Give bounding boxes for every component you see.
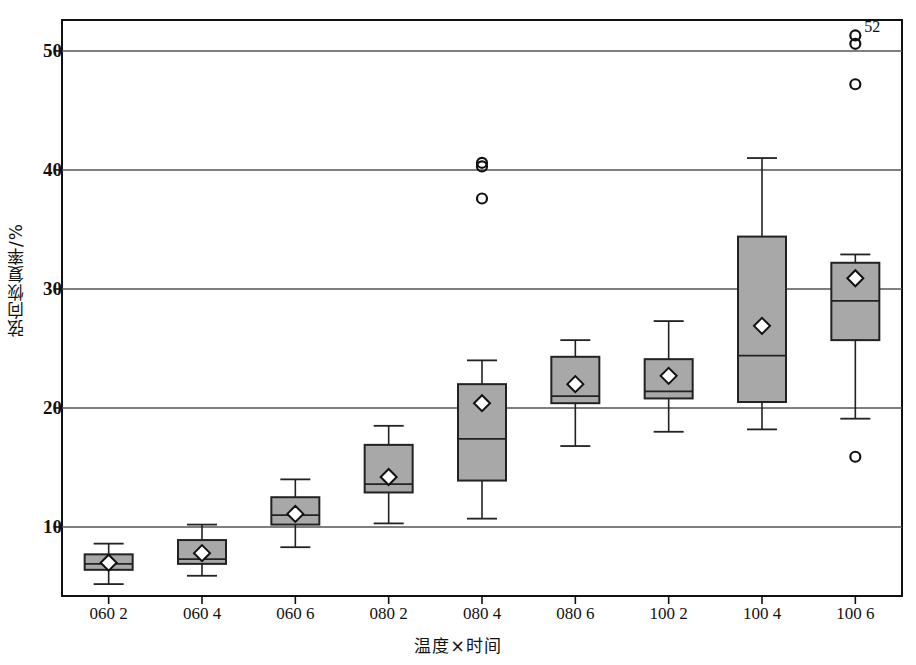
y-axis-tick-label: 30 xyxy=(20,278,62,300)
x-axis-tick-label: 060 4 xyxy=(183,604,221,624)
y-axis-tick-label: 50 xyxy=(20,40,62,62)
x-axis-tick-label: 060 6 xyxy=(276,604,314,624)
x-axis-tick-label: 100 2 xyxy=(650,604,688,624)
x-axis-tick-label: 100 4 xyxy=(743,604,781,624)
y-axis-tick-labels: 1020304050 xyxy=(0,0,62,665)
x-axis-tick-label: 080 2 xyxy=(370,604,408,624)
x-axis-tick-label: 080 4 xyxy=(463,604,501,624)
plot-area xyxy=(0,0,916,665)
x-axis-tick-label: 100 6 xyxy=(836,604,874,624)
x-axis-tick-label: 080 6 xyxy=(556,604,594,624)
y-axis-tick-label: 20 xyxy=(20,397,62,419)
x-axis-title: 温度×时间 xyxy=(0,632,916,657)
outlier-value-label: 52 xyxy=(864,18,880,36)
x-axis-tick-label: 060 2 xyxy=(90,604,128,624)
y-axis-tick-label: 40 xyxy=(20,159,62,181)
y-axis-tick-label: 10 xyxy=(20,516,62,538)
boxplot-figure: 弦向恢复率/% 1020304050 060 2060 4060 6080 20… xyxy=(0,0,916,665)
